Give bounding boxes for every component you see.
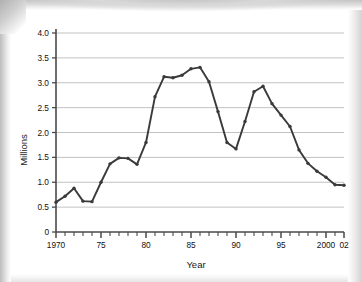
svg-text:2.0: 2.0 [37,128,49,138]
svg-text:2000: 2000 [317,240,336,250]
svg-text:1970: 1970 [47,240,66,250]
y-axis-tick-labels: 00.51.01.52.02.53.03.54.0 [37,28,49,237]
svg-text:4.0: 4.0 [37,28,49,38]
svg-text:3.5: 3.5 [37,53,49,63]
svg-text:85: 85 [186,240,196,250]
svg-text:0.5: 0.5 [37,202,49,212]
x-axis-title: Year [186,259,205,270]
scanned-page-background: 00.51.01.52.02.53.03.54.0 19707580859095… [0,0,362,282]
data-point-markers [54,66,345,204]
svg-text:2.5: 2.5 [37,103,49,113]
svg-text:1.0: 1.0 [37,177,49,187]
y-axis-title: Millions [18,134,29,166]
svg-text:95: 95 [276,240,286,250]
svg-text:02: 02 [339,240,349,250]
svg-text:90: 90 [231,240,241,250]
svg-text:75: 75 [96,240,106,250]
svg-text:0: 0 [44,227,49,237]
x-axis-tick-labels: 19707580859095200002 [47,240,349,250]
x-axis-ticks [56,232,344,238]
svg-text:1.5: 1.5 [37,152,49,162]
svg-text:3.0: 3.0 [37,78,49,88]
gridlines [56,33,344,207]
chart-svg: 00.51.01.52.02.53.03.54.0 19707580859095… [0,0,362,282]
svg-text:80: 80 [141,240,151,250]
line-chart: 00.51.01.52.02.53.03.54.0 19707580859095… [0,0,362,282]
